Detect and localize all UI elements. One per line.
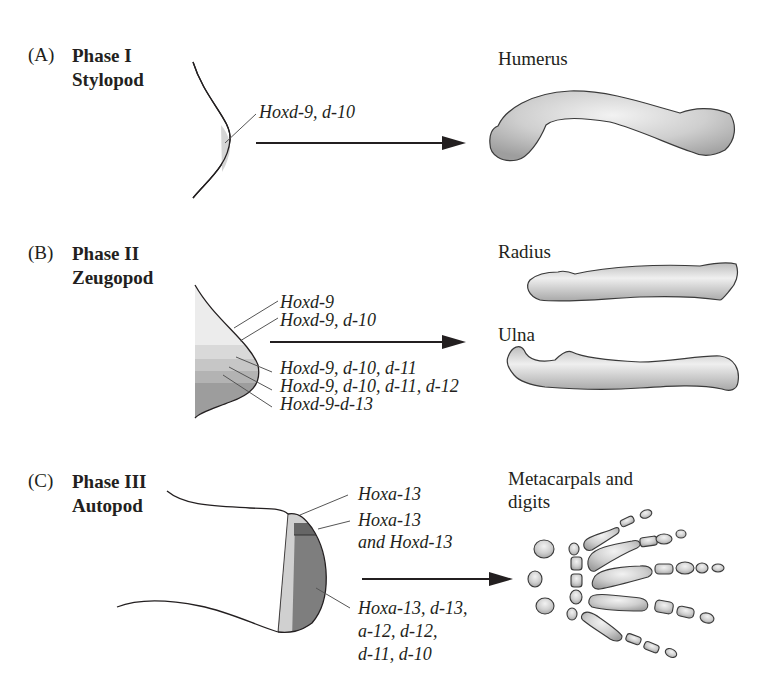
gene-label: Hoxa-13, d-13, [358,599,467,618]
arrow-a [256,136,466,150]
gene-label: and Hoxd-13 [358,533,452,552]
stylopod-limb-bud [193,62,256,198]
gene-label: Hoxd-9-d-13 [280,395,373,414]
gene-label: d-11, d-10 [358,645,432,664]
arrow-b [270,335,466,349]
ulna-bone [507,347,738,391]
bone-label-digits: digits [508,490,550,513]
arrow-c [362,572,513,586]
segment-label: Zeugopod [72,266,153,290]
humerus-bone [490,91,735,161]
bone-label-radius: Radius [498,240,551,263]
radius-bone [528,263,738,301]
gene-label: a-12, d-12, [358,622,438,641]
panel-title: Phase I Stylopod [72,44,144,92]
segment-label: Stylopod [72,68,144,92]
autopod-limb-bud [117,491,350,640]
gene-label: Hoxa-13 [358,511,421,530]
gene-label: Hoxd-9, d-10 [259,103,355,122]
bone-label-ulna: Ulna [498,323,535,346]
panel-title: Phase III Autopod [72,470,146,518]
phase-label: Phase II [72,242,153,266]
hand-skeleton [528,508,724,659]
zeugopod-limb-bud [190,280,278,423]
panel-title: Phase II Zeugopod [72,242,153,290]
phase-label: Phase III [72,470,146,494]
bone-label-metacarpals: Metacarpals and [508,467,633,490]
phase-label: Phase I [72,44,144,68]
diagram-graphics [0,0,770,681]
panel-letter: (A) [28,44,54,66]
bone-label-humerus: Humerus [498,47,568,70]
gene-label: Hoxa-13 [358,485,421,504]
segment-label: Autopod [72,494,146,518]
panel-letter: (C) [28,470,53,492]
gene-label: Hoxd-9, d-10 [280,311,376,330]
panel-letter: (B) [28,242,53,264]
